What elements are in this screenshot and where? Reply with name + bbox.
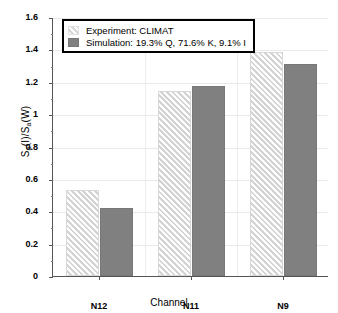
y-tick-label: 1.6 [0,12,38,22]
x-gridline [145,18,146,276]
y-tick-minor [51,196,54,197]
y-tick-mark [49,83,53,84]
chart-legend: Experiment: CLIMAT Simulation: 19.3% Q, … [62,19,255,53]
legend-swatch-simulation-icon [68,38,79,47]
x-gridline [237,18,238,276]
plot-area: 00.20.40.60.811.21.41.6N12N11N9 [52,18,328,277]
legend-label-simulation: Simulation: 19.3% Q, 71.6% K, 9.1% I [86,37,246,48]
y-tick-mark [49,115,53,116]
y-tick-label: 0.2 [0,239,38,249]
y-tick-label: 0 [0,271,38,281]
y-tick-minor [51,131,54,132]
x-tick-mark [191,276,192,280]
bar-N9-simulation [284,64,317,276]
y-tick-mark [49,212,53,213]
y-tick-minor [51,34,54,35]
y-tick-minor [51,99,54,100]
legend-item-experiment: Experiment: CLIMAT [68,24,246,36]
y-tick-minor [51,261,54,262]
y-tick-mark [49,277,53,278]
bar-N9-experiment [250,52,283,276]
legend-label-experiment: Experiment: CLIMAT [86,25,173,36]
y-tick-label: 1.2 [0,77,38,87]
y-tick-mark [49,18,53,19]
x-tick-mark [99,276,100,280]
y-tick-minor [51,164,54,165]
y-tick-label: 0.4 [0,206,38,216]
y-axis-label-sub2: a [25,122,32,126]
y-tick-label: 0.6 [0,174,38,184]
x-tick-mark [283,276,284,280]
bar-N11-experiment [158,91,191,276]
y-tick-mark [49,148,53,149]
y-tick-mark [49,180,53,181]
y-tick-mark [49,50,53,51]
bar-N11-simulation [192,86,225,276]
bar-N12-simulation [100,208,133,276]
bar-chart: Sa(I)/Sa(W) 00.20.40.60.811.21.41.6N12N1… [0,0,338,313]
y-tick-label: 0.8 [0,142,38,152]
y-tick-minor [51,228,54,229]
y-tick-minor [51,67,54,68]
legend-swatch-experiment-icon [68,26,79,35]
y-tick-mark [49,245,53,246]
y-tick-label: 1 [0,109,38,119]
x-axis-label: Channel [0,297,338,308]
bar-N12-experiment [66,190,99,276]
legend-item-simulation: Simulation: 19.3% Q, 71.6% K, 9.1% I [68,36,246,48]
y-tick-label: 1.4 [0,44,38,54]
